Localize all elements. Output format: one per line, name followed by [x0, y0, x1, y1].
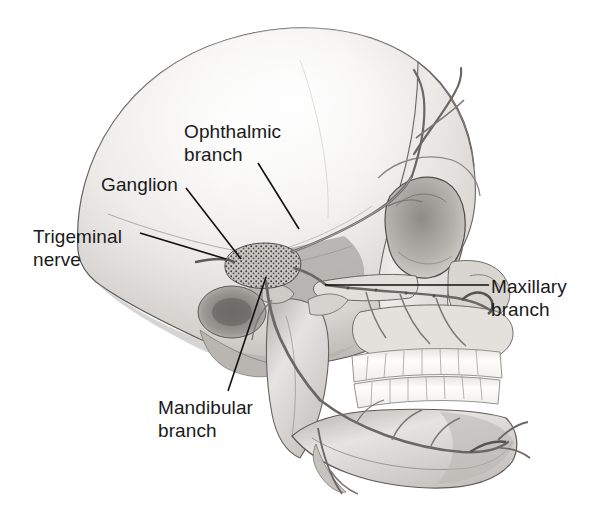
mandibular-branch-label: Mandibular branch: [158, 396, 253, 442]
ganglion-label: Ganglion: [101, 173, 178, 196]
trigeminal-ganglion: [225, 243, 301, 288]
figure-canvas: Ophthalmic branch Ganglion Trigeminal ne…: [0, 0, 596, 510]
maxillary-branch-label: Maxillary branch: [491, 275, 567, 321]
ophthalmic-branch-label: Ophthalmic branch: [184, 120, 281, 166]
trigeminal-nerve-label: Trigeminal nerve: [33, 225, 122, 271]
